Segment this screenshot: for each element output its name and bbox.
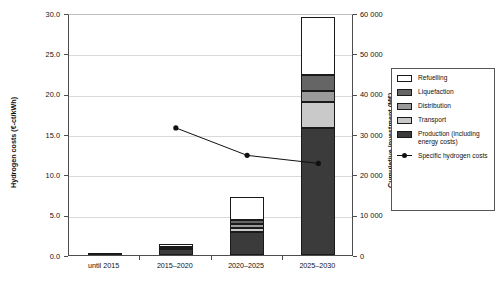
y-axis-left-tick-label: 15.0	[28, 131, 60, 140]
bar-2025-2030[interactable]	[301, 13, 335, 255]
legend-item[interactable]: Transport	[397, 116, 490, 124]
y-axis-left-tickmark	[64, 54, 68, 55]
legend-item-label: Refuelling	[418, 74, 447, 82]
bar-segment-distribution[interactable]	[301, 91, 335, 101]
bar-segment-liquefaction[interactable]	[230, 220, 264, 225]
legend-item-label: Production (including energy costs)	[418, 130, 490, 146]
legend-item-label: Liquefaction	[418, 88, 454, 96]
y-axis-right-tickmark	[353, 14, 357, 15]
y-axis-left-tickmark	[64, 216, 68, 217]
y-axis-left-tickmark	[64, 14, 68, 15]
y-axis-right-tickmark	[353, 135, 357, 136]
bar-segment-refuelling[interactable]	[159, 244, 193, 247]
legend-item[interactable]: Specific hydrogen costs	[397, 152, 490, 160]
chart-container: Hydrogen costs (€-ct/kWh) Cumulative inv…	[0, 0, 501, 286]
y-axis-left-tick-label: 25.0	[28, 50, 60, 59]
plot-area	[68, 14, 353, 256]
y-axis-right-tickmark	[353, 95, 357, 96]
bar-segment-liquefaction[interactable]	[301, 75, 335, 91]
x-axis-tickmark	[211, 256, 212, 260]
y-axis-left-tick-label: 10.0	[28, 171, 60, 180]
bar-segment-production[interactable]	[230, 232, 264, 255]
x-axis-tick-label: until 2015	[69, 261, 139, 270]
x-axis-tick-label: 2025–2030	[282, 261, 352, 270]
y-axis-right-tick-label: 60 000	[360, 10, 400, 19]
bar-2015-2020[interactable]	[159, 13, 193, 255]
legend-color-swatch	[397, 131, 412, 138]
y-axis-left-tick-label: 30.0	[28, 10, 60, 19]
chart-legend: RefuellingLiquefactionDistributionTransp…	[391, 68, 495, 211]
legend-color-swatch	[397, 89, 412, 96]
y-axis-right-tick-label: 50 000	[360, 50, 400, 59]
y-axis-left-title: Hydrogen costs (€-ct/kWh)	[9, 97, 18, 188]
legend-item-label: Specific hydrogen costs	[418, 152, 488, 160]
y-axis-left-tickmark	[64, 256, 68, 257]
bar-segment-refuelling[interactable]	[230, 197, 264, 220]
y-axis-left-tickmark	[64, 95, 68, 96]
bar-segment-production[interactable]	[88, 253, 122, 255]
x-axis-tick-label: 2015–2020	[140, 261, 210, 270]
bar-segment-production[interactable]	[159, 249, 193, 255]
x-axis-tickmark	[139, 256, 140, 260]
legend-item[interactable]: Refuelling	[397, 74, 490, 82]
y-axis-right-tickmark	[353, 54, 357, 55]
y-axis-left-tickmark	[64, 175, 68, 176]
legend-item[interactable]: Distribution	[397, 102, 490, 110]
y-axis-right-tickmark	[353, 216, 357, 217]
legend-item-label: Distribution	[418, 102, 451, 110]
legend-color-swatch	[397, 103, 412, 110]
bar-segment-transport[interactable]	[230, 228, 264, 232]
bar-segment-distribution[interactable]	[230, 224, 264, 228]
y-axis-left-tick-label: 20.0	[28, 90, 60, 99]
x-axis-tickmark	[282, 256, 283, 260]
y-axis-right-tick-label: 10 000	[360, 211, 400, 220]
x-axis-tick-label: 2020–2025	[211, 261, 281, 270]
legend-item[interactable]: Liquefaction	[397, 88, 490, 96]
bar-segment-transport[interactable]	[301, 102, 335, 129]
legend-color-swatch	[397, 117, 412, 124]
legend-item-label: Transport	[418, 116, 446, 124]
y-axis-left-tick-label: 5.0	[28, 211, 60, 220]
bar-2020-2025[interactable]	[230, 13, 264, 255]
y-axis-left-tickmark	[64, 135, 68, 136]
y-axis-right-tickmark	[353, 256, 357, 257]
bar-until-2015[interactable]	[88, 13, 122, 255]
legend-color-swatch	[397, 75, 412, 82]
y-axis-right-tick-label: 0	[360, 252, 400, 261]
y-axis-left-tick-label: 0.0	[28, 252, 60, 261]
legend-line-marker-icon	[397, 152, 412, 160]
legend-item[interactable]: Production (including energy costs)	[397, 130, 490, 146]
bar-segment-production[interactable]	[301, 128, 335, 255]
y-axis-right-tickmark	[353, 175, 357, 176]
bar-segment-refuelling[interactable]	[301, 17, 335, 75]
